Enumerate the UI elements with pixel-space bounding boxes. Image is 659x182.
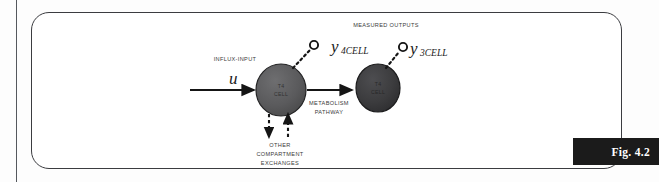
probe-line-y4cell <box>293 50 310 68</box>
influx-input-label: INFLUX-INPUT <box>214 56 257 62</box>
output-subscript-y3cell: 3CELL <box>419 48 447 58</box>
block-diagram: MEASURED OUTPUTS INFLUX-INPUT u T4 CELL … <box>0 0 659 182</box>
output-variable-y3cell: y <box>408 39 418 58</box>
t3-cell-label-line2: CELL <box>371 89 385 95</box>
exchange-label-line3: EXCHANGES <box>261 160 299 166</box>
probe-marker-y4cell[interactable] <box>310 41 318 49</box>
figure-caption-band: Fig. 4.2 <box>573 138 659 165</box>
t4-cell-node[interactable] <box>256 64 306 116</box>
t4-cell-label-line2: CELL <box>274 91 288 97</box>
metabolism-pathway-label-line1: METABOLISM <box>309 100 349 106</box>
probe-marker-y3cell[interactable] <box>399 43 407 51</box>
measured-outputs-label: MEASURED OUTPUTS <box>353 22 419 28</box>
exchange-label-line2: COMPARTMENT <box>256 151 303 157</box>
metabolism-pathway-label-line2: PATHWAY <box>315 109 344 115</box>
output-subscript-y4cell: 4CELL <box>341 46 368 56</box>
output-variable-y4cell: y <box>329 37 339 56</box>
probe-line-y3cell <box>386 52 399 68</box>
exchange-label-line1: OTHER <box>269 142 290 148</box>
t3-cell-node[interactable] <box>356 64 400 112</box>
figure-page: MEASURED OUTPUTS INFLUX-INPUT u T4 CELL … <box>0 0 659 182</box>
figure-caption-label: Fig. 4.2 <box>612 146 651 158</box>
t4-cell-label-line1: T4 <box>278 83 285 89</box>
input-variable-u: u <box>229 69 238 88</box>
t3-cell-label-line1: T4 <box>375 81 382 87</box>
